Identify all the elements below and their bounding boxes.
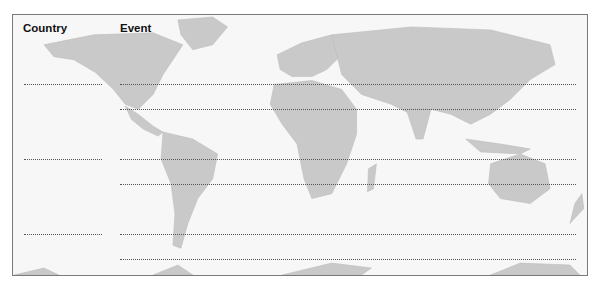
country-blank-2[interactable] [24, 159, 102, 160]
country-blank-1[interactable] [24, 84, 102, 85]
country-column-header: Country [23, 22, 67, 34]
event-blank-1b[interactable] [120, 109, 576, 110]
country-blank-3[interactable] [24, 234, 102, 235]
event-blank-3a[interactable] [120, 234, 576, 235]
world-map-background [13, 15, 587, 275]
worksheet-frame: Country Event [12, 14, 588, 276]
event-blank-1a[interactable] [120, 84, 576, 85]
event-blank-2b[interactable] [120, 184, 576, 185]
event-blank-2a[interactable] [120, 159, 576, 160]
event-column-header: Event [120, 22, 151, 34]
event-blank-3b[interactable] [120, 259, 576, 260]
